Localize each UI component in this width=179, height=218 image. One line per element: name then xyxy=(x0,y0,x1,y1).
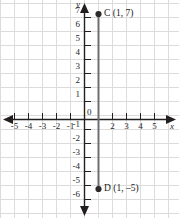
point-d-label: D (1, –5) xyxy=(104,184,139,194)
x-tick-label-neg-1: -1 xyxy=(61,122,80,131)
x-tick-label-2: 2 xyxy=(105,122,120,131)
x-tick-label-4: 4 xyxy=(133,122,148,131)
y-axis-arrow-down xyxy=(80,206,89,216)
coordinate-plane-figure: 7 6 5 4 3 2 1 -1 -2 -3 -4 -5 -6 0 -5 -4 … xyxy=(0,0,179,218)
y-tick-label-neg-2: -2 xyxy=(60,134,80,143)
y-tick-label-2: 2 xyxy=(62,76,80,85)
y-tick-label-5: 5 xyxy=(62,34,80,43)
point-c-label: C (1, 7) xyxy=(104,9,133,19)
y-tick-label-3: 3 xyxy=(62,62,80,71)
y-tick-label-neg-3: -3 xyxy=(60,148,80,157)
y-tick-label-6: 6 xyxy=(62,20,80,29)
y-axis-arrow-up xyxy=(80,3,89,13)
y-tick-label-neg-5: -5 xyxy=(60,176,80,185)
y-tick-label-neg-6: -6 xyxy=(60,190,80,199)
x-axis-label: x xyxy=(170,122,174,131)
y-tick-label-4: 4 xyxy=(62,48,80,57)
origin-label: 0 xyxy=(87,108,92,117)
point-c-marker xyxy=(95,11,101,17)
x-tick-label-3: 3 xyxy=(119,122,134,131)
y-tick-label-1: 1 xyxy=(62,90,80,99)
x-tick-label-5: 5 xyxy=(147,122,162,131)
y-tick-label-neg-4: -4 xyxy=(60,162,80,171)
y-axis-label: y xyxy=(76,0,80,9)
point-d-marker xyxy=(95,186,101,192)
